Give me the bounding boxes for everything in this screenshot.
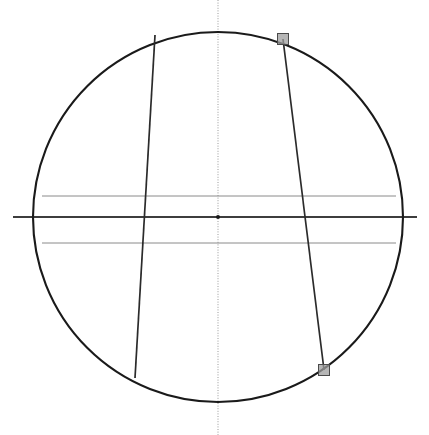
sketch-drawing-area[interactable]: [0, 0, 429, 435]
bottom-right-handle[interactable]: [319, 365, 330, 376]
sketch-canvas[interactable]: [0, 0, 429, 435]
left-chord[interactable]: [135, 35, 155, 378]
right-chord[interactable]: [283, 39, 324, 370]
top-right-handle[interactable]: [278, 34, 289, 45]
center-point: [216, 215, 220, 219]
